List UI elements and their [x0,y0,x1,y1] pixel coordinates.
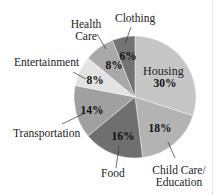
label-health-care-line2: Care [70,30,102,42]
label-food: Food [101,167,125,179]
label-health-care-line1: Health [70,18,102,30]
pct-childcare: 18% [149,122,172,134]
pct-food: 16% [112,130,135,142]
pct-entertainment: 8% [86,74,103,86]
label-childcare-line1: Child Care/ [151,164,207,176]
label-housing: Housing [143,65,184,77]
label-childcare-line2: Education [151,176,207,188]
label-entertainment: Entertainment [14,56,79,68]
label-transportation: Transportation [13,127,80,139]
label-clothing: Clothing [115,12,155,24]
label-childcare: Child Care/ Education [151,164,207,188]
pct-transportation: 14% [81,104,104,116]
label-health-care: Health Care [70,18,102,42]
pct-clothing: 6% [119,50,136,62]
dotted-edge [212,0,213,195]
pct-housing: 30% [154,77,177,89]
